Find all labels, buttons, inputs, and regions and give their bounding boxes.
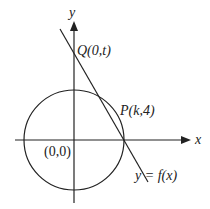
origin-label: (0,0) xyxy=(44,144,71,160)
point-p-label: P(k,4) xyxy=(119,103,155,119)
diagram: y x Q(0,t) P(k,4) (0,0) y = f(x) xyxy=(0,0,210,209)
x-axis-arrow-icon xyxy=(181,136,191,144)
y-axis-arrow-icon xyxy=(70,21,78,31)
x-axis xyxy=(15,136,191,144)
point-q-label: Q(0,t) xyxy=(77,43,111,59)
x-axis-label: x xyxy=(194,132,202,147)
y-axis-label: y xyxy=(67,5,76,20)
line-label: y = f(x) xyxy=(133,168,177,184)
